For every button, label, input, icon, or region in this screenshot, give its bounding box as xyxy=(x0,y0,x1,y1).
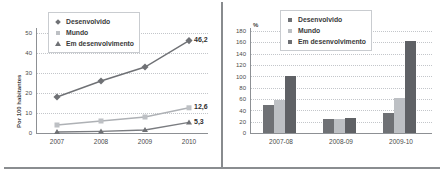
square-marker-icon xyxy=(285,18,294,22)
left-legend-label-em-desenvolvimento: Em desenvolvimento xyxy=(66,40,134,48)
bar-group-2009-10 xyxy=(383,31,416,133)
right-legend-item-em-desenvolvimento[interactable]: Em desenvolvimento xyxy=(285,36,366,47)
right-ytick-160: 160 xyxy=(228,39,246,45)
right-ytick-100: 100 xyxy=(228,74,246,80)
bar-2009-10-mundo[interactable] xyxy=(394,98,405,133)
right-legend-item-mundo[interactable]: Mundo xyxy=(285,25,366,36)
right-xtick-2009-10: 2009-10 xyxy=(379,138,423,145)
right-legend-label-desenvolvido: Desenvolvido xyxy=(298,16,342,24)
left-legend-item-mundo[interactable]: Mundo xyxy=(53,27,134,38)
figure-container: Por 100 habitantes 50 40 30 20 10 0 xyxy=(0,0,444,190)
left-legend-label-desenvolvido: Desenvolvido xyxy=(66,18,110,26)
bottom-rule xyxy=(4,167,440,169)
bar-2008-09-em-desenvolvimento[interactable] xyxy=(345,118,356,133)
left-legend: Desenvolvido Mundo Em desenvolvimento xyxy=(48,12,140,53)
triangle-marker-icon xyxy=(53,41,62,46)
right-legend: Desenvolvido Mundo Em desenvolvimento xyxy=(280,10,372,51)
right-ytick-180: 180 xyxy=(228,28,246,34)
markers-mundo xyxy=(55,105,192,127)
square-marker-icon xyxy=(53,31,62,35)
right-ytick-0: 0 xyxy=(228,130,246,136)
left-label-em-desenvolvimento: 5,3 xyxy=(194,118,204,125)
left-legend-item-em-desenvolvimento[interactable]: Em desenvolvimento xyxy=(53,38,134,49)
right-ytick-40: 40 xyxy=(228,108,246,114)
bar-2009-10-em-desenvolvimento[interactable] xyxy=(405,41,416,133)
left-xtick-2009: 2009 xyxy=(128,138,162,145)
right-y-axis xyxy=(250,28,251,133)
panel-divider xyxy=(221,2,223,168)
bar-2008-09-desenvolvido[interactable] xyxy=(323,119,334,133)
left-legend-label-mundo: Mundo xyxy=(66,29,88,37)
right-legend-label-mundo: Mundo xyxy=(298,27,320,35)
bar-chart-panel: % 180 160 140 120 100 80 60 40 20 0 xyxy=(223,0,444,168)
line-chart-panel: Por 100 habitantes 50 40 30 20 10 0 xyxy=(0,0,221,168)
right-ytick-20: 20 xyxy=(228,119,246,125)
right-ytick-140: 140 xyxy=(228,51,246,57)
right-y-axis-unit: % xyxy=(253,22,258,28)
bar-2008-09-mundo[interactable] xyxy=(334,119,345,133)
diamond-marker-icon xyxy=(53,20,62,24)
right-xtick-2008-09: 2008-09 xyxy=(319,138,363,145)
right-ytick-80: 80 xyxy=(228,85,246,91)
right-legend-label-em-desenvolvimento: Em desenvolvimento xyxy=(298,38,366,46)
square-marker-icon xyxy=(285,29,294,33)
right-x-axis xyxy=(250,133,432,134)
bar-2009-10-desenvolvido[interactable] xyxy=(383,113,394,133)
right-ytick-60: 60 xyxy=(228,96,246,102)
bar-2007-08-desenvolvido[interactable] xyxy=(263,105,274,133)
bar-2007-08-em-desenvolvimento[interactable] xyxy=(285,76,296,133)
right-legend-item-desenvolvido[interactable]: Desenvolvido xyxy=(285,14,366,25)
left-xtick-2008: 2008 xyxy=(84,138,118,145)
left-label-mundo: 12,6 xyxy=(194,103,208,110)
left-xtick-2010: 2010 xyxy=(172,138,206,145)
bar-2007-08-mundo[interactable] xyxy=(274,100,285,133)
left-legend-item-desenvolvido[interactable]: Desenvolvido xyxy=(53,16,134,27)
right-ytick-120: 120 xyxy=(228,62,246,68)
right-xtick-2007-08: 2007-08 xyxy=(259,138,303,145)
left-xtick-2007: 2007 xyxy=(40,138,74,145)
square-marker-icon xyxy=(285,40,294,44)
left-label-desenvolvido: 46,2 xyxy=(194,36,208,43)
series-line-mundo xyxy=(57,108,189,125)
